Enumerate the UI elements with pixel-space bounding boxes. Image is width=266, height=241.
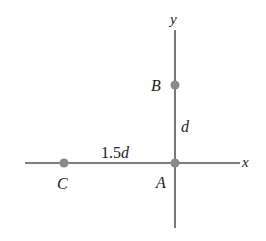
distance-ac-number: 1.5 xyxy=(101,144,121,161)
point-c xyxy=(60,159,69,168)
distance-ab-label: d xyxy=(181,118,190,135)
distance-ac-label: 1.5d xyxy=(101,144,130,161)
point-b xyxy=(171,81,180,90)
point-b-label: B xyxy=(151,77,161,94)
point-a xyxy=(171,159,180,168)
distance-ac-var: d xyxy=(121,144,130,161)
coordinate-diagram: y x B d A C 1.5d xyxy=(0,0,266,241)
point-a-label: A xyxy=(155,174,166,191)
point-c-label: C xyxy=(57,175,68,192)
x-axis-label: x xyxy=(241,154,249,170)
y-axis-label: y xyxy=(168,11,177,27)
